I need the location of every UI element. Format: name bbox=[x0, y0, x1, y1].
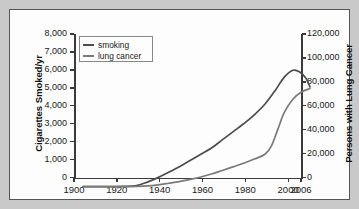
y-axis-right-tick bbox=[302, 81, 306, 82]
y-axis-left-tick bbox=[70, 51, 74, 52]
y-axis-left-tick bbox=[70, 105, 74, 106]
y-axis-left-tick bbox=[70, 141, 74, 142]
x-axis-tick bbox=[288, 178, 289, 182]
x-axis-tick bbox=[245, 178, 246, 182]
y-axis-right-title: Persons with Lung Cancer bbox=[343, 29, 354, 179]
legend-item-lung-cancer: lung cancer bbox=[83, 50, 152, 61]
chart-legend: smoking lung cancer bbox=[79, 36, 153, 62]
chart-card: 01,0002,0003,0004,0005,0006,0007,0008,00… bbox=[9, 9, 350, 200]
line-lung-cancer bbox=[83, 88, 310, 186]
y-axis-right-tick bbox=[302, 33, 306, 34]
x-axis-tick-label: 1980 bbox=[225, 185, 265, 195]
y-axis-left-tick bbox=[70, 87, 74, 88]
y-axis-left-tick bbox=[70, 69, 74, 70]
x-axis-tick-label: 2006 bbox=[281, 185, 321, 195]
y-axis-right-tick bbox=[302, 129, 306, 130]
x-axis-tick bbox=[116, 178, 117, 182]
x-axis-tick bbox=[159, 178, 160, 182]
y-axis-right-tick bbox=[302, 57, 306, 58]
y-axis-right-tick bbox=[302, 153, 306, 154]
chart-figure: 01,0002,0003,0004,0005,0006,0007,0008,00… bbox=[0, 0, 359, 209]
legend-swatch-lung-cancer bbox=[83, 55, 94, 57]
y-axis-left-tick bbox=[70, 33, 74, 34]
y-axis-left-tick bbox=[70, 159, 74, 160]
line-smoking bbox=[83, 70, 310, 187]
y-axis-left-tick bbox=[70, 123, 74, 124]
y-axis-left-title: Cigarettes Smoked/yr bbox=[33, 29, 44, 179]
x-axis-tick-label: 1960 bbox=[182, 185, 222, 195]
legend-swatch-smoking bbox=[83, 44, 94, 46]
x-axis-tick-label: 1940 bbox=[140, 185, 180, 195]
x-axis-line bbox=[74, 178, 303, 180]
y-axis-left-line bbox=[74, 34, 76, 179]
legend-label-lung-cancer: lung cancer bbox=[98, 51, 141, 61]
x-axis-tick bbox=[202, 178, 203, 182]
legend-label-smoking: smoking bbox=[98, 40, 129, 50]
y-axis-right-line bbox=[301, 34, 303, 179]
y-axis-right-tick bbox=[302, 105, 306, 106]
x-axis-tick-label: 1920 bbox=[97, 185, 137, 195]
legend-item-smoking: smoking bbox=[83, 39, 152, 50]
y-axis-right-tick bbox=[302, 177, 306, 178]
x-axis-tick bbox=[73, 178, 74, 182]
x-axis-tick bbox=[300, 178, 301, 182]
x-axis-tick-label: 1900 bbox=[54, 185, 94, 195]
